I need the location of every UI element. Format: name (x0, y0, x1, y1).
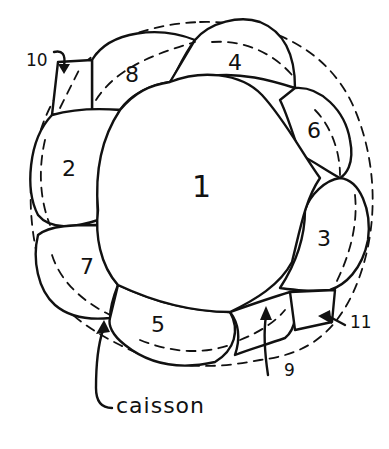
caption-arrow-line (96, 330, 112, 408)
label-cell-2: 2 (62, 158, 76, 180)
label-cell-4: 4 (228, 52, 242, 74)
label-cell-8: 8 (125, 64, 139, 86)
label-callout-11: 11 (350, 314, 372, 331)
label-cell-1: 1 (192, 172, 211, 202)
caption-arrow-head (96, 320, 110, 334)
diagram-drawing (0, 0, 389, 449)
caption-caisson: caisson (116, 395, 205, 417)
label-cell-7: 7 (80, 256, 94, 278)
caisson-diagram: 1 2 3 4 5 6 7 8 10 9 11 caisson (0, 0, 389, 449)
label-callout-10: 10 (26, 52, 48, 69)
label-cell-6: 6 (307, 120, 321, 142)
label-cell-5: 5 (151, 314, 165, 336)
label-cell-3: 3 (317, 228, 331, 250)
cell-11-gap (290, 290, 335, 330)
cell-10-gap (52, 60, 92, 115)
label-callout-9: 9 (284, 362, 295, 379)
